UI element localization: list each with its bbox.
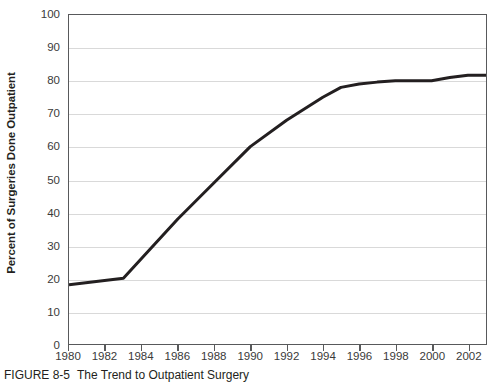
y-tick-label: 10 [47, 306, 60, 318]
y-tick-label: 80 [47, 74, 60, 86]
x-tick-label: 1994 [310, 350, 336, 362]
y-tick-label: 50 [47, 174, 60, 186]
plot-area [68, 14, 487, 345]
y-axis-title-text: Percent of Surgeries Done Outpatient [5, 72, 17, 274]
y-tick-label: 30 [47, 240, 60, 252]
figure-container: Percent of Surgeries Done Outpatient 010… [0, 0, 497, 387]
x-tick-label: 1980 [55, 350, 81, 362]
x-tick-label: 2000 [420, 350, 446, 362]
x-tick-label: 1982 [92, 350, 118, 362]
x-tick-label: 2002 [456, 350, 482, 362]
y-axis-tick-labels: 0102030405060708090100 [22, 0, 66, 360]
x-tick-label: 1996 [347, 350, 373, 362]
x-tick-label: 1984 [128, 350, 154, 362]
y-tick-label: 60 [47, 140, 60, 152]
x-tick-label: 1992 [274, 350, 300, 362]
x-tick-label: 1988 [201, 350, 227, 362]
y-tick-label: 20 [47, 273, 60, 285]
x-tick-label: 1998 [383, 350, 409, 362]
y-tick-label: 70 [47, 107, 60, 119]
y-axis-title: Percent of Surgeries Done Outpatient [0, 0, 22, 345]
y-tick-label: 90 [47, 41, 60, 53]
figure-caption: FIGURE 8-5The Trend to Outpatient Surger… [4, 368, 249, 382]
x-tick-label: 1990 [237, 350, 263, 362]
figure-caption-label: FIGURE 8-5 [4, 368, 70, 382]
x-axis-tick-labels: 1980198219841986198819901992199419961998… [0, 350, 497, 368]
figure-caption-text: The Trend to Outpatient Surgery [77, 368, 249, 382]
y-tick-label: 40 [47, 207, 60, 219]
x-tick-label: 1986 [165, 350, 191, 362]
series-line-outpatient-percent [69, 75, 486, 285]
series-line-chart [69, 15, 486, 344]
y-tick-label: 100 [41, 8, 60, 20]
